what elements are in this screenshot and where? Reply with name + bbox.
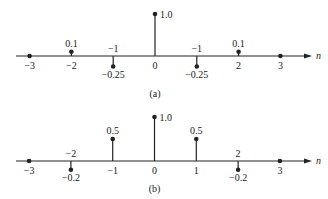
value-label: −0.2	[229, 172, 247, 183]
stem-marker	[27, 159, 32, 164]
panel-caption: (a)	[149, 88, 160, 100]
stem-marker	[194, 137, 199, 142]
tick-label: 2	[236, 148, 241, 159]
stem-n1: 10.5	[190, 125, 203, 176]
tick-label: −1	[107, 165, 118, 176]
value-label: 0.5	[106, 125, 119, 136]
tick-label: −3	[24, 165, 35, 176]
stem-n3: 3	[277, 159, 282, 176]
stem-marker	[278, 159, 283, 164]
stem-marker	[69, 50, 74, 55]
stem-marker	[27, 54, 32, 59]
axis-arrow-icon	[304, 159, 312, 164]
value-label: 0.5	[190, 125, 203, 136]
value-label: 0.1	[232, 38, 245, 49]
stem-n2: 20.1	[232, 38, 245, 71]
tick-label: 0	[152, 165, 157, 176]
axis-label: n	[316, 155, 321, 166]
stem-n0: 01.0	[152, 112, 172, 176]
value-label: −0.2	[62, 172, 80, 183]
tick-label: −1	[108, 43, 119, 54]
stem-marker	[152, 115, 157, 120]
stem-marker	[278, 54, 283, 59]
value-label: 1.0	[160, 112, 173, 123]
tick-label: 3	[277, 165, 282, 176]
tick-label: −2	[66, 148, 77, 159]
stem-n3: 3	[278, 54, 283, 71]
stem-n-1: −10.5	[106, 125, 119, 176]
stem-plot-a: n−3−20.1−1−0.2501.0−1−0.2520.13(a)	[16, 9, 321, 100]
tick-label: −2	[66, 60, 77, 71]
stem-marker	[236, 50, 241, 55]
stem-n-2: −2−0.2	[62, 148, 80, 183]
tick-label: 0	[153, 60, 158, 71]
axis-label: n	[316, 50, 321, 61]
tick-label: 2	[236, 60, 241, 71]
tick-label: −3	[24, 60, 35, 71]
stem-plots: n−3−20.1−1−0.2501.0−1−0.2520.13(a)n−3−2−…	[0, 0, 328, 199]
value-label: −0.25	[102, 69, 125, 80]
stem-plot-b: n−3−2−0.2−10.501.010.52−0.23(b)	[16, 112, 321, 195]
tick-label: 1	[194, 165, 199, 176]
stem-n-2: −20.1	[65, 38, 78, 71]
stem-n2: 2−0.2	[229, 148, 247, 183]
tick-label: −1	[191, 43, 202, 54]
stem-n-1: −1−0.25	[102, 43, 125, 80]
stem-n0: 01.0	[153, 9, 173, 71]
stem-marker	[110, 137, 115, 142]
axis-arrow-icon	[304, 54, 312, 59]
value-label: −0.25	[185, 69, 208, 80]
stem-n1: −1−0.25	[185, 43, 208, 80]
value-label: 0.1	[65, 38, 78, 49]
panel-caption: (b)	[149, 183, 161, 195]
tick-label: 3	[278, 60, 283, 71]
stem-marker	[153, 12, 158, 17]
value-label: 1.0	[160, 9, 173, 20]
